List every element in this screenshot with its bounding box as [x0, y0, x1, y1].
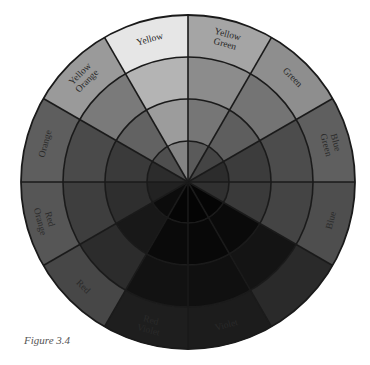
figure-caption: Figure 3.4: [24, 334, 70, 346]
color-wheel: YellowGreenGreenBlueGreenBlueBlueVioletV…: [0, 0, 370, 365]
